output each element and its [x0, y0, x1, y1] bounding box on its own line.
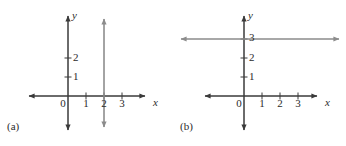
x-tick-label-2: 2: [98, 97, 110, 109]
y-tick-label-2: 2: [73, 51, 85, 63]
x-axis-name: x: [153, 96, 158, 108]
y-tick-label-2: 2: [249, 51, 261, 63]
y-axis-name: y: [248, 9, 253, 21]
panel-label-b: (b): [180, 120, 193, 132]
x-tick-label-2: 2: [274, 97, 286, 109]
y-tick-label-3: 3: [249, 31, 261, 43]
panel-a: 0 1 2 3 1 2 x y (a): [0, 0, 173, 146]
x-tick-label-1: 1: [256, 97, 268, 109]
x-tick-label-3: 3: [116, 97, 128, 109]
origin-label: 0: [233, 97, 245, 109]
figure-container: 0 1 2 3 1 2 x y (a): [0, 0, 346, 146]
y-tick-label-1: 1: [249, 70, 261, 82]
y-tick-label-1: 1: [73, 70, 85, 82]
panel-a-plot: [0, 0, 173, 146]
panel-b: 0 1 2 3 1 2 3 x y (b): [173, 0, 346, 146]
origin-label: 0: [57, 97, 69, 109]
panel-label-a: (a): [7, 120, 19, 132]
x-tick-label-3: 3: [292, 97, 304, 109]
x-tick-label-1: 1: [80, 97, 92, 109]
x-axis-name: x: [325, 96, 330, 108]
y-axis-name: y: [72, 9, 77, 21]
